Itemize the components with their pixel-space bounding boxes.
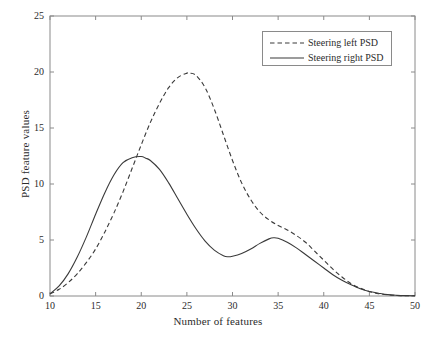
y-tick-label: 0 [18, 290, 44, 301]
legend-swatch-solid [269, 52, 305, 64]
x-tick-label: 50 [400, 300, 430, 311]
legend-swatch-dashed [269, 37, 305, 49]
y-tick-label: 5 [18, 234, 44, 245]
legend-label-steering-right: Steering right PSD [308, 52, 384, 63]
x-tick-label: 35 [263, 300, 293, 311]
y-tick-label: 25 [18, 10, 44, 21]
legend: Steering left PSD Steering right PSD [262, 31, 392, 66]
chart-figure: Number of features PSD feature values 10… [0, 0, 436, 340]
series-line [50, 157, 415, 296]
x-tick-label: 25 [172, 300, 202, 311]
data-series-group [50, 73, 415, 296]
x-tick-label: 30 [218, 300, 248, 311]
x-tick-label: 45 [354, 300, 384, 311]
x-tick-label: 20 [126, 300, 156, 311]
legend-entry-steering-right: Steering right PSD [263, 50, 393, 65]
legend-entry-steering-left: Steering left PSD [263, 35, 393, 50]
x-tick-label: 10 [35, 300, 65, 311]
series-line [50, 73, 415, 296]
legend-label-steering-left: Steering left PSD [308, 37, 378, 48]
y-tick-label: 15 [18, 122, 44, 133]
y-tick-label: 20 [18, 66, 44, 77]
y-tick-label: 10 [18, 178, 44, 189]
x-tick-label: 40 [309, 300, 339, 311]
y-axis-label: PSD feature values [19, 74, 31, 234]
x-axis-label: Number of features [0, 315, 436, 327]
x-tick-label: 15 [81, 300, 111, 311]
